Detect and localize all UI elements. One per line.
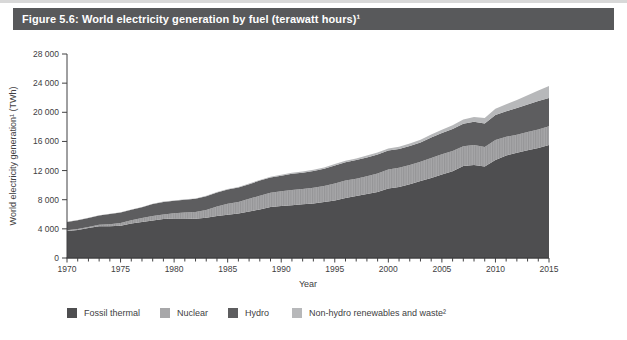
legend-swatch-non-hydro-renewables-and-waste [292, 308, 302, 318]
y-tick-label: 16 000 [33, 136, 59, 146]
x-tick-label: 1985 [218, 264, 237, 274]
legend-item-nuclear: Nuclear [160, 308, 208, 318]
y-tick-label: 0 [54, 253, 59, 263]
x-tick-label: 1990 [272, 264, 291, 274]
legend-label: Non-hydro renewables and waste² [309, 308, 446, 318]
y-tick-label: 24 000 [33, 78, 59, 88]
x-tick-label: 1980 [165, 264, 184, 274]
y-axis-title: World electricity generation¹ (TWh) [8, 87, 18, 226]
x-tick-label: 1975 [111, 264, 130, 274]
legend-label: Fossil thermal [84, 308, 140, 318]
y-tick-label: 8 000 [38, 195, 60, 205]
figure-title: Figure 5.6: World electricity generation… [22, 13, 360, 25]
x-tick-label: 1970 [58, 264, 77, 274]
legend-swatch-fossil-thermal [67, 308, 77, 318]
figure-title-bar: Figure 5.6: World electricity generation… [13, 8, 614, 30]
legend: Fossil thermalNuclearHydroNon-hydro rene… [0, 308, 627, 324]
page-top-edge [0, 0, 627, 3]
legend-item-fossil-thermal: Fossil thermal [67, 308, 140, 318]
x-axis-title: Year [299, 279, 317, 289]
legend-label: Nuclear [177, 308, 208, 318]
y-tick-label: 28 000 [33, 49, 59, 59]
y-tick-label: 12 000 [33, 166, 59, 176]
figure: Figure 5.6: World electricity generation… [0, 0, 627, 340]
legend-label: Hydro [245, 308, 269, 318]
x-tick-label: 2015 [540, 264, 559, 274]
legend-item-hydro: Hydro [228, 308, 269, 318]
y-tick-label: 4 000 [38, 224, 60, 234]
stacked-area-chart: 04 0008 00012 00016 00020 00024 00028 00… [0, 40, 627, 302]
legend-swatch-nuclear [160, 308, 170, 318]
x-tick-label: 1995 [325, 264, 344, 274]
x-tick-label: 2000 [379, 264, 398, 274]
x-tick-label: 2010 [486, 264, 505, 274]
legend-swatch-hydro [228, 308, 238, 318]
y-tick-label: 20 000 [33, 107, 59, 117]
x-tick-label: 2005 [432, 264, 451, 274]
legend-item-non-hydro-renewables-and-waste: Non-hydro renewables and waste² [292, 308, 446, 318]
